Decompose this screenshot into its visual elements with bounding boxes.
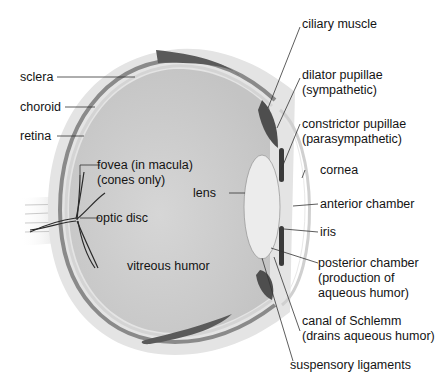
- label-posterior-1: posterior chamber: [318, 256, 419, 270]
- eye-diagram: ciliary muscle sclera choroid retina dil…: [0, 0, 445, 385]
- label-vitreous-humor: vitreous humor: [127, 259, 210, 273]
- label-choroid: choroid: [20, 100, 61, 114]
- label-constrictor-2: (parasympathetic): [302, 132, 402, 146]
- label-optic-disc: optic disc: [96, 211, 148, 225]
- label-cornea: cornea: [320, 163, 358, 177]
- label-fovea-1: fovea (in macula): [97, 158, 193, 172]
- label-dilator-2: (sympathetic): [302, 83, 377, 97]
- label-retina: retina: [20, 129, 51, 143]
- label-ciliary-muscle: ciliary muscle: [302, 17, 377, 31]
- label-sclera: sclera: [20, 70, 53, 84]
- iris-lower: [279, 226, 284, 266]
- label-constrictor-1: constrictor pupillae: [302, 117, 406, 131]
- lens-shape: [244, 155, 280, 259]
- label-dilator-1: dilator pupillae: [302, 68, 383, 82]
- label-suspensory-ligaments: suspensory ligaments: [290, 358, 411, 372]
- label-posterior-2: (production of: [318, 271, 395, 285]
- label-schlemm-1: canal of Schlemm: [302, 314, 401, 328]
- label-anterior-chamber: anterior chamber: [320, 197, 415, 211]
- label-fovea-2: (cones only): [97, 173, 165, 187]
- label-lens: lens: [193, 186, 216, 200]
- label-posterior-3: aqueous humor): [318, 286, 409, 300]
- label-iris: iris: [320, 225, 336, 239]
- label-schlemm-2: (drains aqueous humor): [302, 329, 435, 343]
